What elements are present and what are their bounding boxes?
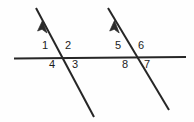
angle-label-6: 6 (138, 40, 144, 51)
horizontal-transversal-line (14, 57, 186, 59)
geometry-canvas (0, 0, 194, 122)
angle-label-7: 7 (144, 59, 150, 70)
angle-label-8: 8 (122, 59, 128, 70)
right-line-direction-arrow-icon (110, 21, 120, 34)
angle-label-1: 1 (42, 40, 48, 51)
geometry-diagram: 1 2 3 4 5 6 7 8 (0, 0, 194, 122)
angle-label-4: 4 (49, 59, 55, 70)
angle-label-5: 5 (115, 40, 121, 51)
right-parallel-line (108, 8, 169, 110)
angle-label-2: 2 (65, 40, 71, 51)
left-parallel-line (36, 8, 94, 117)
angle-label-3: 3 (72, 59, 78, 70)
